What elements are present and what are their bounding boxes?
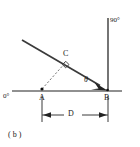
dashed-segment-ac — [42, 62, 66, 89]
dimension-arrow-right-icon — [99, 112, 107, 118]
ray-arrowhead-icon — [91, 83, 108, 91]
point-label-a: A — [39, 94, 45, 102]
dimension-arrow-left-icon — [43, 112, 51, 118]
angle-label-zero-degrees: 0° — [3, 93, 9, 100]
geometry-figure: 0° 90° A B C θ D ( b ) — [0, 0, 140, 147]
dimension-label-d: D — [68, 110, 74, 118]
incident-ray-line — [22, 40, 100, 86]
angle-label-theta: θ — [84, 76, 88, 84]
point-marker-a — [40, 87, 43, 90]
point-label-c: C — [63, 50, 68, 58]
point-marker-b — [106, 89, 109, 92]
point-label-b: B — [104, 94, 109, 102]
figure-caption: ( b ) — [8, 131, 21, 139]
angle-label-ninety-degrees: 90° — [110, 17, 120, 24]
